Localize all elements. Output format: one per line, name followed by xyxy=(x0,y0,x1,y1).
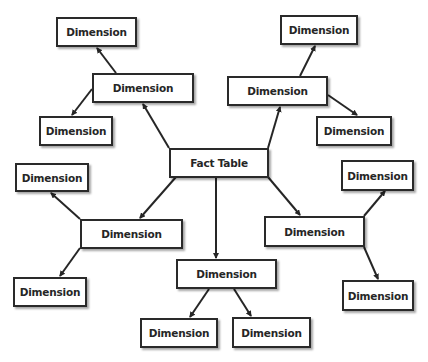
arrow-connector xyxy=(140,177,176,218)
arrow-connector xyxy=(364,191,385,216)
arrow-connector xyxy=(268,177,300,215)
dimension-node: Dimension xyxy=(280,15,358,45)
dimension-node: Dimension xyxy=(140,318,218,348)
arrow-connector xyxy=(234,289,251,316)
dimension-node: Dimension xyxy=(56,17,137,47)
dimension-label: Dimension xyxy=(348,290,409,302)
dimension-node: Dimension xyxy=(232,317,311,348)
arrow-connector xyxy=(51,193,80,219)
dimension-node: Dimension xyxy=(316,116,392,146)
star-schema-diagram: Fact TableDimensionDimensionDimensionDim… xyxy=(0,0,428,362)
arrow-connector xyxy=(364,247,378,279)
dimension-node: Dimension xyxy=(176,259,277,289)
dimension-label: Dimension xyxy=(22,172,83,184)
dimension-node: Dimension xyxy=(341,160,414,191)
dimension-label: Dimension xyxy=(149,327,210,339)
dimension-label: Dimension xyxy=(324,125,385,137)
arrow-connector xyxy=(72,89,92,115)
dimension-node: Dimension xyxy=(13,277,87,307)
dimension-label: Dimension xyxy=(101,228,162,240)
dimension-label: Dimension xyxy=(46,125,107,137)
dimension-label: Dimension xyxy=(66,26,127,38)
arrow-connector xyxy=(60,248,80,276)
arrow-connector xyxy=(97,48,116,73)
dimension-label: Dimension xyxy=(196,268,257,280)
arrow-connector xyxy=(300,46,315,76)
dimension-node: Dimension xyxy=(15,163,89,192)
fact-table-label: Fact Table xyxy=(190,157,248,169)
dimension-node: Dimension xyxy=(39,116,113,146)
dimension-label: Dimension xyxy=(113,82,174,94)
dimension-label: Dimension xyxy=(289,24,350,36)
dimension-node: Dimension xyxy=(92,73,194,103)
arrow-connector xyxy=(328,95,357,115)
arrow-connector xyxy=(190,289,209,317)
dimension-label: Dimension xyxy=(347,170,408,182)
dimension-node: Dimension xyxy=(264,216,365,247)
dimension-label: Dimension xyxy=(241,327,302,339)
arrow-connector xyxy=(268,107,280,148)
dimension-label: Dimension xyxy=(20,286,81,298)
dimension-label: Dimension xyxy=(284,226,345,238)
dimension-node: Dimension xyxy=(227,76,328,106)
dimension-node: Dimension xyxy=(80,219,183,249)
dimension-node: Dimension xyxy=(342,280,414,311)
dimension-label: Dimension xyxy=(247,85,308,97)
fact-table-node: Fact Table xyxy=(169,148,269,178)
arrow-connector xyxy=(143,104,169,148)
